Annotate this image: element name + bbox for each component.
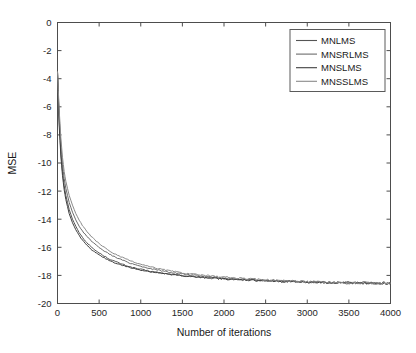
y-tick-label: -12 — [38, 186, 52, 197]
x-tick-label: 3000 — [297, 307, 318, 318]
y-tick-label: -14 — [38, 214, 52, 225]
plot-series — [58, 72, 391, 285]
y-tick-label: 0 — [46, 17, 51, 28]
x-tick-label: 4000 — [380, 307, 401, 318]
chart-figure: 050010001500200025003000350040000-2-4-6-… — [0, 0, 416, 353]
y-tick-label: -2 — [43, 45, 51, 56]
series-line-mnsrlms — [58, 72, 391, 285]
legend-label-mnlms[interactable]: MNLMS — [321, 35, 355, 46]
x-tick-label: 2500 — [255, 307, 276, 318]
y-tick-label: -4 — [43, 73, 51, 84]
y-tick-label: -18 — [38, 270, 52, 281]
y-tick-label: -16 — [38, 242, 52, 253]
y-tick-label: -20 — [38, 298, 52, 309]
x-tick-label: 0 — [55, 307, 60, 318]
y-axis-title: MSE — [6, 152, 18, 175]
y-tick-label: -6 — [43, 101, 51, 112]
x-axis-title: Number of iterations — [177, 326, 272, 338]
mse-convergence-chart: 050010001500200025003000350040000-2-4-6-… — [0, 0, 416, 353]
x-tick-label: 500 — [91, 307, 107, 318]
legend-label-mnsslms[interactable]: MNSSLMS — [321, 76, 368, 87]
y-tick-label: -8 — [43, 129, 51, 140]
x-tick-label: 1500 — [172, 307, 193, 318]
legend-label-mnslms[interactable]: MNSLMS — [321, 62, 362, 73]
chart-legend[interactable]: MNLMSMNSRLMSMNSLMSMNSSLMS — [290, 30, 385, 92]
x-tick-label: 2000 — [213, 307, 234, 318]
y-tick-label: -10 — [38, 157, 52, 168]
x-tick-label: 1000 — [130, 307, 151, 318]
legend-label-mnsrlms[interactable]: MNSRLMS — [321, 49, 369, 60]
x-tick-label: 3500 — [338, 307, 359, 318]
